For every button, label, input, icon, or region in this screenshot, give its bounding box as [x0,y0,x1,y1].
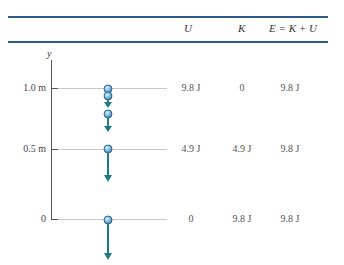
tick-label-1m: 1.0 m [6,82,46,93]
row1-K: 0 [220,82,264,93]
row2-E: 9.8 J [268,143,312,154]
ball-mid-group [104,110,112,132]
row3-E: 9.8 J [268,213,312,224]
row1-U: 9.8 J [169,82,213,93]
row2-K: 4.9 J [220,143,264,154]
row2-U: 4.9 J [169,143,213,154]
row3-U: 0 [169,213,213,224]
row3-K: 9.8 J [220,213,264,224]
ball-1m-group [104,85,112,108]
row1-E: 9.8 J [268,82,312,93]
tick-label-05m: 0.5 m [6,143,46,154]
ball-05m-group [104,145,112,182]
ball-0m-group [104,216,112,260]
tick-label-0m: 0 [6,213,46,224]
falling-ball-diagram [0,0,344,265]
